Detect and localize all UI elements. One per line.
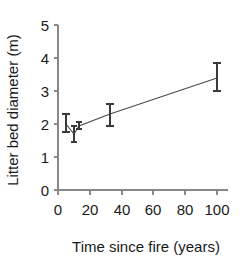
chart-figure: Litter bed diameter (m) Time since fire … (0, 0, 252, 260)
y-tick-label-5: 5 (41, 17, 49, 34)
x-tick-label-20: 20 (82, 201, 99, 218)
chart-plot-area: Litter bed diameter (m) Time since fire … (0, 0, 252, 260)
y-axis-title: Litter bed diameter (m) (4, 34, 21, 186)
x-tick-label-0: 0 (54, 201, 62, 218)
y-tick-label-3: 3 (41, 83, 49, 100)
y-tick-label-4: 4 (41, 50, 49, 67)
error-bar-point-0 (62, 114, 70, 132)
x-tick-label-60: 60 (145, 201, 162, 218)
y-tick-label-1: 1 (41, 149, 49, 166)
x-tick-label-100: 100 (204, 201, 229, 218)
y-tick-label-0: 0 (41, 182, 49, 199)
error-bar-point-1 (71, 126, 77, 142)
x-axis-title: Time since fire (years) (72, 238, 220, 255)
x-tick-label-40: 40 (114, 201, 131, 218)
x-tick-label-80: 80 (177, 201, 194, 218)
error-bar-point-4 (213, 63, 221, 91)
series-line-litter-bed-diameter (66, 78, 217, 134)
y-tick-label-2: 2 (41, 116, 49, 133)
